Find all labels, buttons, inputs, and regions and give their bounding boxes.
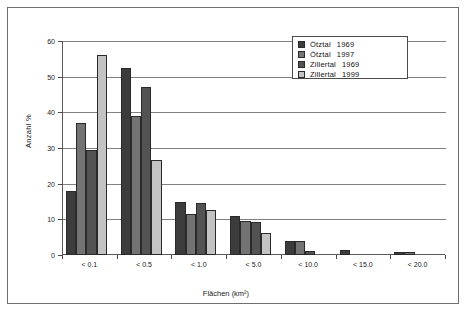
bar <box>285 241 295 255</box>
y-tick-label: 50 <box>47 73 55 80</box>
legend-item: Ötztal1969 <box>298 39 407 49</box>
bar <box>240 221 250 255</box>
legend-label: Ötztal1997 <box>310 50 354 59</box>
bar <box>151 160 161 255</box>
x-tick-label: < 0.1 <box>62 261 117 268</box>
x-tick-label: < 15.0 <box>336 261 391 268</box>
bar <box>261 233 271 255</box>
x-tick-label: < 10.0 <box>281 261 336 268</box>
y-tick-label: 10 <box>47 216 55 223</box>
chart-figure: Anzahl % Flächen (km²) Ötztal1969Ötztal1… <box>0 0 468 313</box>
legend-swatch-icon <box>298 71 305 78</box>
legend-swatch-icon <box>298 41 305 48</box>
x-tick-label: < 20.0 <box>390 261 445 268</box>
x-tick-mark <box>336 255 337 259</box>
bar <box>394 252 404 255</box>
bar <box>340 250 350 255</box>
bar <box>141 87 151 255</box>
x-tick-label: < 0.5 <box>117 261 172 268</box>
y-tick-mark <box>58 77 62 78</box>
x-tick-mark <box>390 255 391 259</box>
bar <box>196 203 206 255</box>
legend-label: Zillertal1999 <box>310 70 359 79</box>
x-axis-title: Flächen (km²) <box>0 289 452 298</box>
bar <box>305 251 315 255</box>
x-tick-mark <box>117 255 118 259</box>
bar <box>186 214 196 255</box>
y-tick-label: 0 <box>51 252 55 259</box>
x-tick-mark <box>445 255 446 259</box>
y-tick-mark <box>58 148 62 149</box>
legend-swatch-icon <box>298 51 305 58</box>
bar <box>404 252 414 255</box>
legend-label: Ötztal1969 <box>310 40 354 49</box>
legend-swatch-icon <box>298 61 305 68</box>
bar <box>66 191 76 255</box>
bar <box>121 68 131 255</box>
legend-label: Zillertal1969 <box>310 60 359 69</box>
x-tick-mark <box>281 255 282 259</box>
bar <box>295 241 305 255</box>
x-tick-label: < 1.0 <box>171 261 226 268</box>
y-axis-title: Anzahl % <box>24 114 33 148</box>
y-tick-label: 30 <box>47 145 55 152</box>
bar <box>76 123 86 255</box>
bar <box>251 222 261 255</box>
bar <box>206 210 216 255</box>
y-tick-mark <box>58 184 62 185</box>
chart-legend: Ötztal1969Ötztal1997Zillertal1969Zillert… <box>292 36 408 79</box>
bar <box>86 150 96 255</box>
y-tick-mark <box>58 41 62 42</box>
y-tick-label: 40 <box>47 109 55 116</box>
bar <box>131 116 141 255</box>
x-tick-label: < 5.0 <box>226 261 281 268</box>
x-tick-mark <box>62 255 63 259</box>
y-tick-label: 20 <box>47 180 55 187</box>
bar <box>175 202 185 256</box>
legend-item: Ötztal1997 <box>298 49 407 59</box>
legend-item: Zillertal1969 <box>298 59 407 69</box>
x-tick-mark <box>171 255 172 259</box>
legend-item: Zillertal1999 <box>298 69 407 79</box>
x-tick-mark <box>226 255 227 259</box>
bar <box>97 55 107 255</box>
y-tick-mark <box>58 219 62 220</box>
bar <box>230 216 240 255</box>
y-tick-mark <box>58 112 62 113</box>
y-tick-label: 60 <box>47 38 55 45</box>
